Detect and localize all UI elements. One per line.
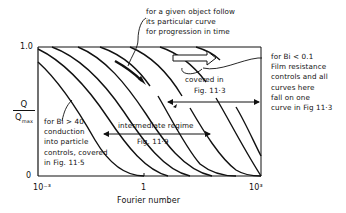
x-tick-left: 10⁻³ — [33, 183, 51, 193]
small-marker — [173, 104, 177, 108]
note-covered-line-2: Fig. 11·3 — [194, 86, 226, 96]
note-left: for Bi > 40 conduction into particle con… — [44, 117, 108, 168]
y-label-denominator: Qmax — [13, 112, 35, 126]
note-right-line-4: curves here — [271, 83, 332, 93]
note-right-line-6: curve in Fig 11·3 — [271, 103, 332, 113]
note-covered-line-1: covered in — [185, 75, 224, 85]
note-top-line-1: for a given object follow — [146, 7, 235, 17]
note-left-line-3: into particle — [44, 137, 108, 147]
note-top-line-2: its particular curve — [146, 17, 235, 27]
curve-5 — [100, 47, 236, 176]
note-left-line-4: controls, covered — [44, 148, 108, 158]
leader-line-top — [128, 18, 146, 66]
curve-6 — [130, 47, 261, 176]
y-tick-top: 1.0 — [20, 42, 33, 52]
fraction-bar — [13, 110, 35, 111]
note-right-line-1: for Bi < 0.1 — [271, 52, 332, 62]
note-top: for a given object follow its particular… — [146, 7, 235, 38]
y-label-subscript: max — [22, 118, 33, 124]
note-right-line-2: Film resistance — [271, 62, 332, 72]
y-tick-bottom: 0 — [26, 171, 31, 181]
note-right-line-3: controls and all — [271, 72, 332, 82]
note-right: for Bi < 0.1 Film resistance controls an… — [271, 52, 332, 113]
note-left-line-5: in Fig. 11·5 — [44, 158, 108, 168]
note-fig-11-9: Fig. 11·9 — [137, 137, 169, 147]
x-tick-mid: 1 — [141, 183, 146, 193]
note-left-line-2: conduction — [44, 127, 108, 137]
y-label-q: Q — [15, 112, 22, 122]
note-top-line-3: for progression in time — [146, 27, 235, 37]
hollow-arrow — [173, 51, 262, 74]
x-axis-label: Fourier number — [117, 196, 180, 206]
y-axis-label: Q Qmax — [13, 99, 35, 126]
note-left-line-1: for Bi > 40 — [44, 117, 108, 127]
x-tick-right: 10³ — [249, 183, 263, 193]
note-right-line-5: fall on one — [271, 93, 332, 103]
y-label-numerator: Q — [13, 99, 35, 109]
note-intermediate: intermediate regime — [118, 121, 194, 131]
curve-7 — [160, 47, 261, 176]
